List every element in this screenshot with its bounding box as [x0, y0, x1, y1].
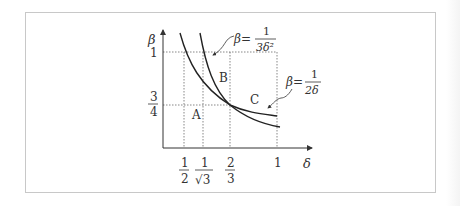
x-tick-1-2-num: 1 — [181, 156, 189, 170]
region-b-label: B — [219, 71, 228, 85]
guide-lines — [163, 52, 277, 148]
y-axis-label: β — [147, 32, 156, 47]
curve-label-2delta-den: 2δ — [304, 84, 319, 97]
x-tick-1-sqrt3-den: √3 — [195, 173, 210, 187]
region-c-label: C — [250, 93, 259, 107]
y-tick-3-4-num: 3 — [150, 90, 158, 104]
y-tick-1: 1 — [150, 46, 158, 60]
x-tick-1-sqrt3-num: 1 — [201, 156, 209, 170]
x-axis-label: δ — [303, 156, 311, 171]
curve-label-2delta-prefix: β= — [285, 75, 303, 89]
curve-label-3delta2-prefix: β= — [233, 32, 251, 46]
curve-label-2delta-num: 1 — [311, 68, 318, 81]
y-tick-3-4-den: 4 — [150, 105, 158, 119]
diagram: β δ 1 3 4 1 2 1 √3 2 3 1 A B C β= 1 3δ² … — [0, 0, 460, 206]
x-tick-2-3-den: 3 — [227, 172, 235, 186]
curve-label-3delta2-den: 3δ² — [256, 41, 274, 54]
curve-label-2delta: β= 1 2δ — [285, 68, 321, 97]
x-tick-2-3-num: 2 — [227, 156, 235, 170]
curve-label-3delta2: β= 1 3δ² — [233, 25, 276, 54]
curve-label-3delta2-num: 1 — [263, 25, 270, 38]
region-a-label: A — [191, 108, 201, 122]
x-tick-1: 1 — [274, 156, 282, 170]
x-tick-1-2-den: 2 — [181, 172, 189, 186]
